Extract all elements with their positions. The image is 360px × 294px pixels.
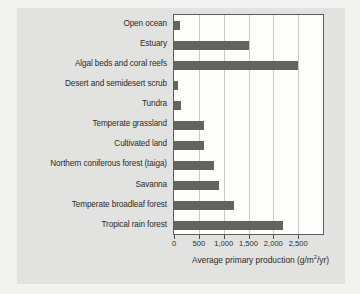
bar-row <box>174 55 323 75</box>
category-label: Algal beds and coral reefs <box>75 60 167 68</box>
category-row: Algal beds and coral reefs <box>17 54 173 74</box>
value-axis: 05001,0001,5002,0002,500 <box>173 235 324 251</box>
bar-row <box>174 156 323 176</box>
chart-body: Open ocean Estuary Algal beds and coral … <box>17 14 345 235</box>
category-label: Estuary <box>140 40 167 48</box>
category-row: Savanna <box>17 175 173 195</box>
axis-tick-label: 2,000 <box>264 239 283 248</box>
category-label: Open ocean <box>123 20 167 28</box>
category-row: Open ocean <box>17 14 173 34</box>
category-row: Estuary <box>17 34 173 54</box>
category-label: Temperate grassland <box>92 120 167 128</box>
category-label: Tundra <box>142 100 167 108</box>
bar <box>174 101 181 110</box>
axis-tick-label: 2,500 <box>289 239 308 248</box>
category-row: Tropical rain forest <box>17 215 173 235</box>
axis-tick-label: 1,500 <box>239 239 258 248</box>
category-label: Savanna <box>135 181 167 189</box>
bar <box>174 41 249 50</box>
bar-row <box>174 35 323 55</box>
bar <box>174 201 234 210</box>
bar <box>174 181 219 190</box>
category-row: Tundra <box>17 94 173 114</box>
category-row: Cultivated land <box>17 134 173 154</box>
axis-tick-label: 500 <box>192 239 205 248</box>
bar <box>174 121 204 130</box>
bar <box>174 161 214 170</box>
category-row: Temperate broadleaf forest <box>17 195 173 215</box>
axis-tick-label: 1,000 <box>214 239 233 248</box>
bar-row <box>174 176 323 196</box>
plot-area <box>173 14 324 235</box>
figure-panel: Open ocean Estuary Algal beds and coral … <box>17 8 345 284</box>
bar-row <box>174 135 323 155</box>
bar-row <box>174 95 323 115</box>
category-row: Desert and semidesert scrub <box>17 74 173 94</box>
category-row: Northern coniferous forest (taiga) <box>17 155 173 175</box>
bar-series <box>174 15 323 234</box>
bar-row <box>174 15 323 35</box>
category-label: Northern coniferous forest (taiga) <box>50 160 167 168</box>
bar <box>174 141 204 150</box>
bar <box>174 21 180 30</box>
bar-row <box>174 216 323 236</box>
axis-title-suffix: /yr) <box>317 255 329 265</box>
axis-title: Average primary production (g/m2/yr) <box>173 255 348 265</box>
category-label: Temperate broadleaf forest <box>72 201 167 209</box>
category-label: Desert and semidesert scrub <box>65 80 167 88</box>
bar <box>174 221 283 230</box>
category-label: Tropical rain forest <box>102 221 168 229</box>
category-axis: Open ocean Estuary Algal beds and coral … <box>17 14 173 235</box>
bar <box>174 61 298 70</box>
bar-row <box>174 115 323 135</box>
bar-row <box>174 196 323 216</box>
axis-tick-label: 0 <box>172 239 176 248</box>
bar <box>174 81 178 90</box>
category-label: Cultivated land <box>114 140 167 148</box>
category-row: Temperate grassland <box>17 114 173 134</box>
axis-title-prefix: Average primary production (g/m <box>192 255 314 265</box>
bar-row <box>174 75 323 95</box>
